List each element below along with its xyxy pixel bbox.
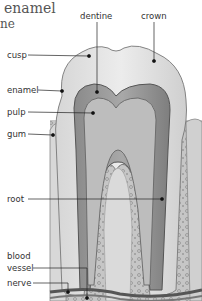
label-root: root: [7, 195, 24, 204]
label-dentine: dentine: [80, 12, 112, 21]
label-blood: blood: [7, 252, 31, 261]
label-cusp: cusp: [7, 51, 27, 60]
label-crown: crown: [141, 12, 167, 21]
label-vessel: vessel: [7, 264, 34, 273]
label-enamel: enamel: [7, 86, 39, 95]
label-pulp: pulp: [7, 108, 26, 117]
label-nerve: nerve: [7, 279, 31, 288]
label-gum: gum: [7, 130, 26, 139]
